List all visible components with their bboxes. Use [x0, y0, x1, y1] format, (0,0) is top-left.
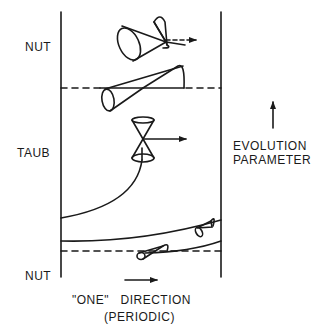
lower-worldline-1: [61, 220, 221, 241]
label-nut-bottom: NUT: [25, 270, 51, 283]
label-periodic: (PERIODIC): [104, 311, 175, 324]
label-evolution: EVOLUTION: [233, 140, 307, 153]
lower-light-cone-right: [194, 219, 214, 238]
label-one-direction: "ONE" DIRECTION: [72, 294, 191, 307]
label-parameter: PARAMETER: [233, 154, 311, 167]
taub-worldline: [61, 160, 142, 218]
label-nut-top: NUT: [25, 41, 51, 54]
label-taub: TAUB: [17, 147, 50, 160]
